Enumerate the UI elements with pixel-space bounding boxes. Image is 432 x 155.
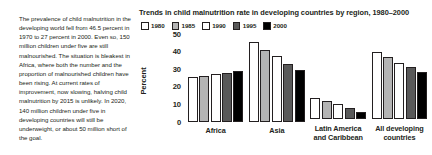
- y-axis-tick: 10: [173, 99, 181, 108]
- legend-swatch-icon: [202, 22, 210, 30]
- x-axis-group-label: Asia: [269, 126, 284, 135]
- x-axis-group-label: Latin America and Caribbean: [313, 124, 362, 142]
- chart-legend: 19801985199019952000: [141, 22, 432, 30]
- bar[interactable]: [283, 64, 293, 121]
- legend-item[interactable]: 1995: [233, 22, 257, 30]
- bar[interactable]: [383, 57, 393, 119]
- bar[interactable]: [356, 112, 366, 119]
- bar[interactable]: [406, 67, 416, 119]
- bar[interactable]: [295, 70, 305, 121]
- chart-panel: Trends in child malnutrition rate in dev…: [137, 0, 432, 155]
- plot-area: Percent 01020304050 AfricaAsiaLatin Amer…: [139, 34, 432, 142]
- legend-item[interactable]: 1980: [141, 22, 165, 30]
- narrative-text: The prevalence of child malnutrition in …: [19, 14, 131, 142]
- bar[interactable]: [372, 52, 382, 119]
- y-axis-tick: 20: [173, 82, 181, 91]
- y-axis-tick: 50: [173, 29, 181, 38]
- legend-label: 2000: [273, 22, 287, 29]
- bar[interactable]: [345, 108, 355, 119]
- y-axis-tick: 0: [177, 117, 181, 126]
- y-axis-tick: 40: [173, 47, 181, 56]
- legend-item[interactable]: 2000: [263, 22, 287, 30]
- bar-group: Africa: [185, 34, 246, 142]
- y-axis-label: Percent: [139, 58, 148, 104]
- bar-groups: AfricaAsiaLatin America and CaribbeanAll…: [185, 34, 430, 142]
- legend-label: 1995: [243, 22, 257, 29]
- legend-label: 1985: [182, 22, 196, 29]
- infographic-root: The prevalence of child malnutrition in …: [0, 0, 432, 155]
- bar-set: [188, 34, 244, 122]
- x-axis-group-label: Africa: [206, 126, 226, 135]
- bar-group: Latin America and Caribbean: [308, 34, 369, 142]
- bar[interactable]: [417, 72, 427, 119]
- bar[interactable]: [211, 74, 221, 122]
- bar[interactable]: [222, 73, 232, 121]
- bar[interactable]: [333, 104, 343, 119]
- bar-set: [310, 34, 366, 120]
- chart-title: Trends in child malnutrition rate in dev…: [139, 8, 432, 17]
- bar[interactable]: [188, 77, 198, 122]
- narrative-column: The prevalence of child malnutrition in …: [0, 0, 137, 155]
- bar-group: Asia: [246, 34, 307, 142]
- x-axis-group-label: All developing countries: [375, 124, 423, 142]
- bar[interactable]: [199, 76, 209, 122]
- bar[interactable]: [310, 98, 320, 119]
- legend-swatch-icon: [233, 22, 241, 30]
- legend-swatch-icon: [141, 22, 149, 30]
- legend-label: 1980: [151, 22, 165, 29]
- legend-swatch-icon: [263, 22, 271, 30]
- legend-item[interactable]: 1990: [202, 22, 226, 30]
- bar[interactable]: [394, 63, 404, 119]
- bar-set: [249, 34, 305, 122]
- y-axis-tick: 30: [173, 64, 181, 73]
- bar[interactable]: [233, 71, 243, 121]
- bar-group: All developing countries: [369, 34, 430, 142]
- bar[interactable]: [249, 42, 259, 121]
- y-axis: 01020304050: [157, 34, 181, 122]
- bar[interactable]: [260, 50, 270, 121]
- bar[interactable]: [322, 101, 332, 119]
- bar-set: [372, 34, 428, 120]
- bar[interactable]: [272, 56, 282, 121]
- legend-label: 1990: [212, 22, 226, 29]
